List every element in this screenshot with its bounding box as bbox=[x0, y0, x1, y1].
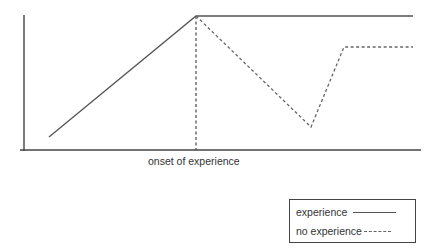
no-experience-line bbox=[196, 16, 413, 127]
x-axis-label: onset of experience bbox=[148, 155, 240, 167]
legend-item-experience: experience bbox=[296, 206, 396, 218]
dashed-line-swatch-icon bbox=[364, 231, 391, 232]
legend-item-no-experience: no experience bbox=[296, 225, 391, 237]
legend-label: no experience bbox=[296, 225, 362, 237]
legend-label: experience bbox=[296, 206, 347, 218]
experience-line bbox=[49, 16, 413, 137]
solid-line-swatch-icon bbox=[353, 212, 396, 213]
legend: experience no experience bbox=[289, 199, 416, 243]
